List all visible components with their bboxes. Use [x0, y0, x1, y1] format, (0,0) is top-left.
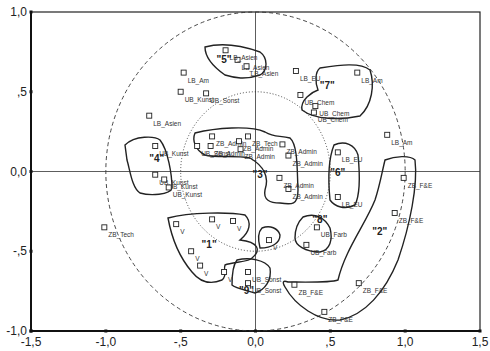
point-marker-icon: [102, 225, 107, 230]
point-label: V: [195, 255, 200, 262]
data-point: V: [198, 263, 210, 277]
x-tick-mark: [254, 330, 257, 333]
point-marker-icon: [174, 222, 179, 227]
x-tick-label: 0,0: [247, 335, 264, 349]
x-tick-label: 1,5: [472, 335, 489, 349]
point-label: LB_Asien: [251, 70, 279, 78]
point-marker-icon: [293, 69, 298, 74]
point-label: LB_Am: [361, 77, 382, 85]
point-label: ZB_F&E: [399, 217, 424, 225]
cluster-label: "2": [372, 226, 387, 237]
point-marker-icon: [178, 89, 183, 94]
point-marker-icon: [298, 92, 303, 97]
cluster-label: "3": [252, 169, 267, 180]
x-tick-mark: [404, 330, 407, 333]
point-label: V: [180, 228, 185, 235]
cluster-label: "9": [239, 285, 254, 296]
x-tick-label: -,5: [174, 335, 188, 349]
point-label: LB_EU: [342, 201, 363, 209]
point-label: UB_Kunst: [173, 191, 202, 199]
y-tick-mark: [30, 170, 33, 173]
y-tick-mark: [30, 11, 33, 14]
y-tick-label: -1,0: [6, 324, 27, 338]
point-label: ZB_Admin: [243, 145, 274, 153]
point-label: UB_Sonst: [252, 276, 281, 284]
point-label: UB_Farb: [321, 231, 347, 239]
point-label: UB_Chem: [318, 116, 348, 124]
cluster-4-outline: [125, 137, 172, 194]
data-point: LB_Am: [385, 132, 413, 147]
point-marker-icon: [222, 269, 227, 274]
cluster-label: "4": [149, 153, 164, 164]
point-label: V: [228, 276, 233, 283]
point-label: UB_Farb: [310, 249, 336, 257]
point-marker-icon: [181, 70, 186, 75]
point-marker-icon: [392, 210, 397, 215]
data-point: LB_Asien: [147, 113, 182, 128]
point-label: UB_Sonst: [210, 97, 239, 105]
point-marker-icon: [195, 143, 200, 148]
point-marker-icon: [231, 218, 236, 223]
point-label: ZB_F&E: [408, 182, 433, 190]
cluster-label: "1": [202, 239, 217, 250]
data-point: ZB_F&E: [292, 282, 324, 297]
point-label: LB_EU: [300, 75, 321, 83]
point-marker-icon: [292, 282, 297, 287]
cluster-label: "6": [330, 167, 345, 178]
point-label: V: [273, 244, 278, 251]
point-marker-icon: [280, 142, 285, 147]
data-point: ZB_F&E: [322, 309, 354, 324]
point-label: ZB_F&E: [363, 287, 388, 295]
data-point: V: [174, 222, 186, 236]
y-tick-label: -,5: [13, 244, 27, 258]
data-point: UB_Farb: [314, 225, 347, 240]
point-label: ZB_Tech: [108, 231, 134, 239]
y-tick-label: 1,0: [10, 5, 27, 19]
cluster-label: "5": [217, 54, 232, 65]
point-label: V: [204, 270, 209, 277]
point-marker-icon: [147, 113, 152, 118]
point-marker-icon: [335, 195, 340, 200]
point-marker-icon: [335, 150, 340, 155]
data-point: LB_EU: [293, 69, 320, 84]
data-point: ZB_F&E: [356, 281, 388, 296]
point-label: LB_Asien: [153, 120, 181, 128]
point-label: ZB_Admin: [245, 153, 276, 161]
data-point: ZB_Admin: [280, 142, 317, 157]
point-marker-icon: [210, 134, 215, 139]
data-point: ZB_Tech: [102, 225, 135, 240]
data-point: V: [189, 249, 201, 263]
x-tick-mark: [329, 330, 332, 333]
x-tick-mark: [179, 330, 182, 333]
point-label: ZB_Admin: [286, 148, 317, 156]
data-point: ZB_F&E: [401, 175, 433, 190]
point-marker-icon: [189, 249, 194, 254]
point-label: ZB_Admin: [283, 182, 314, 190]
point-marker-icon: [166, 185, 171, 190]
x-tick-mark: [479, 330, 482, 333]
point-marker-icon: [313, 104, 318, 109]
y-tick-label: 0,0: [10, 165, 27, 179]
point-label: V: [237, 225, 242, 232]
point-marker-icon: [237, 139, 242, 144]
cluster-label: "8": [312, 214, 327, 225]
point-marker-icon: [322, 309, 327, 314]
point-marker-icon: [244, 64, 249, 69]
x-tick-label: -1,0: [95, 335, 116, 349]
data-point: ZB_Admin: [277, 175, 314, 190]
point-label: UB_Chem: [304, 99, 334, 107]
cluster-label: "7": [320, 80, 335, 91]
data-point: LB_Am: [355, 70, 383, 85]
data-point: V: [222, 269, 234, 283]
data-point: V: [231, 218, 243, 232]
y-tick-mark: [30, 250, 33, 253]
point-marker-icon: [356, 281, 361, 286]
data-point: LB_EU: [335, 150, 362, 165]
y-tick-mark: [30, 90, 33, 93]
point-marker-icon: [277, 175, 282, 180]
x-tick-mark: [104, 330, 107, 333]
point-marker-icon: [266, 238, 271, 243]
x-tick-label: ,5: [325, 335, 335, 349]
data-point: V: [210, 217, 222, 231]
point-marker-icon: [198, 263, 203, 268]
